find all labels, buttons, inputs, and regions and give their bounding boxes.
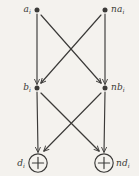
node-label-nd: ndi xyxy=(116,159,130,170)
node-label-a: ai xyxy=(24,5,31,16)
node-label-d: di xyxy=(17,159,25,170)
node-dot-a xyxy=(35,8,40,13)
node-dot-nb xyxy=(103,86,108,91)
butterfly-flow-figure: ai nai bi nbi di ndi xyxy=(0,0,139,176)
node-label-b: bi xyxy=(23,83,31,94)
node-label-nb-main: nb xyxy=(111,82,123,92)
node-dot-na xyxy=(103,8,108,13)
edge-nb-to-nd xyxy=(104,92,105,152)
adder-node-d xyxy=(29,154,47,172)
edge-b-to-d xyxy=(37,92,38,152)
node-label-na-sub: i xyxy=(122,8,124,15)
adder-node-nd xyxy=(95,154,113,172)
node-label-a-sub: i xyxy=(29,8,31,15)
node-label-b-sub: i xyxy=(29,86,31,93)
node-dot-b xyxy=(35,86,40,91)
node-label-na: nai xyxy=(111,5,124,16)
edge-nb-to-d xyxy=(44,93,101,151)
node-label-nb: nbi xyxy=(111,83,125,94)
node-label-nd-sub: i xyxy=(128,162,130,169)
node-label-d-sub: i xyxy=(23,162,25,169)
node-label-nb-sub: i xyxy=(123,86,125,93)
node-label-nd-main: nd xyxy=(116,158,128,168)
edge-b-to-nd xyxy=(41,93,99,151)
node-label-na-main: na xyxy=(111,4,122,14)
